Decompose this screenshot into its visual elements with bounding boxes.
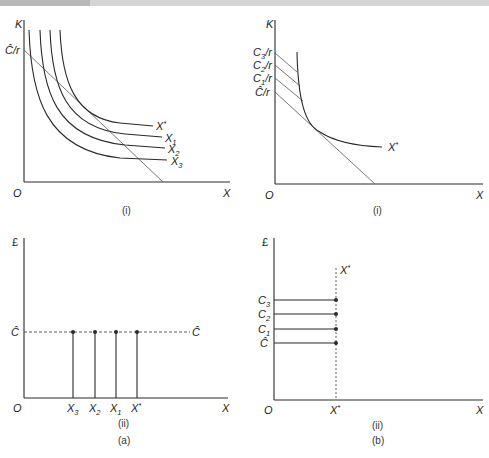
point-x1: [114, 330, 118, 334]
cost-label-right: Ĉ: [192, 326, 200, 338]
point-c2: [334, 312, 338, 316]
intercept-label: Ĉ/r: [5, 44, 21, 56]
point-x2: [93, 330, 97, 334]
panel-a-i: K Ĉ/r O X X* X1 X2 X3 (i): [5, 18, 231, 216]
cost-label-c1: C1: [258, 323, 270, 338]
x-tick-x3: X3: [66, 402, 79, 417]
figure-caption-b: (b): [372, 435, 384, 446]
intercept-label-chat: Ĉ/r: [255, 86, 271, 98]
y-axis-label: £: [12, 236, 18, 248]
panel-b-ii: £ X* C3 C2 C1 Ĉ O X* X (ii) (b): [258, 236, 484, 446]
sub-caption: (ii): [372, 420, 383, 431]
figure-caption-a: (a): [118, 435, 130, 446]
sub-caption: (i): [373, 205, 382, 216]
cost-label-c3: C3: [258, 294, 271, 309]
isoquant-x3: [29, 30, 167, 160]
point-chat: [334, 341, 338, 345]
x-axis-label: X: [222, 187, 231, 199]
point-xstar: [135, 330, 139, 334]
x-tick-xstar: X*: [130, 401, 142, 414]
x-axis-label: X: [475, 404, 484, 416]
isocost-chat: [275, 92, 375, 184]
x-axis-label: X: [221, 402, 230, 414]
cost-label-chat: Ĉ: [260, 337, 268, 349]
isocost-c3: [275, 53, 297, 72]
x-axis-label: X: [475, 189, 484, 201]
isocost-line: [24, 50, 163, 182]
panel-a-ii: £ Ĉ Ĉ X3 X2 X1 X* O X (ii) (a): [11, 236, 230, 446]
x-tick-x1: X1: [109, 402, 122, 417]
origin-label: O: [13, 187, 22, 199]
origin-label: O: [264, 404, 273, 416]
y-axis-label: K: [266, 18, 274, 30]
intercept-label-c1: C1/r: [253, 72, 273, 87]
curve-label-xstar: X*: [387, 140, 399, 153]
isocost-c2: [275, 65, 300, 86]
origin-label: O: [265, 189, 274, 201]
curve-label-xstar: X*: [155, 119, 167, 132]
cost-label-left: Ĉ: [11, 326, 19, 338]
origin-label: O: [13, 402, 22, 414]
x-tick-x2: X2: [88, 402, 101, 417]
sub-caption: (i): [122, 205, 131, 216]
sub-caption: (ii): [118, 418, 129, 429]
point-x3: [71, 330, 75, 334]
point-c1: [334, 327, 338, 331]
curve-label-x3: X3: [170, 155, 183, 170]
cost-label-c2: C2: [258, 308, 271, 323]
y-axis-label: K: [15, 18, 23, 30]
isoquant-xstar: [297, 52, 382, 147]
point-c3: [334, 298, 338, 302]
vertical-line-label: X*: [339, 263, 351, 276]
y-axis-label: £: [262, 236, 268, 248]
figure-canvas: K Ĉ/r O X X* X1 X2 X3 (i) K C3/r C2/r C1…: [0, 0, 489, 458]
x-tick-xstar: X*: [329, 403, 341, 416]
panel-b-i: K C3/r C2/r C1/r Ĉ/r X* O X (i): [253, 18, 484, 216]
